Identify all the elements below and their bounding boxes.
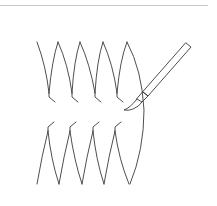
stitch-brush-illustration: [0, 0, 217, 206]
top-row-strokes: [37, 42, 127, 102]
bottom-row-strokes: [37, 122, 129, 184]
paint-brush-icon: [124, 43, 191, 110]
right-leaf-outline: [127, 42, 144, 184]
